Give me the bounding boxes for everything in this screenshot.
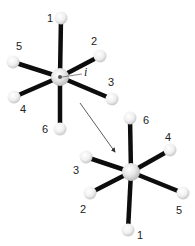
ligand-label-3: 3	[73, 164, 79, 176]
inversion-arrow	[80, 103, 115, 152]
ligand-atom-1	[55, 12, 68, 25]
inversion-center-dot	[58, 75, 62, 79]
ligand-label-2: 2	[91, 35, 97, 47]
central-atom	[122, 163, 140, 181]
ligand-atom-6	[54, 123, 67, 136]
ligand-atom-6	[124, 112, 137, 125]
ligand-label-6: 6	[143, 114, 149, 126]
ligand-label-1: 1	[137, 229, 143, 241]
top-molecule: i123456	[7, 12, 119, 136]
ligand-atom-1	[122, 224, 135, 237]
arrow-line	[80, 103, 115, 152]
ligand-label-3: 3	[108, 76, 114, 88]
ligand-atom-4	[8, 91, 21, 104]
ligand-label-4: 4	[20, 103, 26, 115]
bottom-molecule: 123456	[73, 112, 190, 242]
ligand-label-6: 6	[42, 123, 48, 135]
ligand-label-4: 4	[165, 131, 171, 143]
ligand-label-2: 2	[80, 203, 86, 215]
ligand-atom-2	[84, 187, 97, 200]
ligand-atom-3	[80, 151, 93, 164]
ligand-atom-5	[177, 187, 190, 200]
inversion-center-label: i	[84, 65, 87, 79]
ligand-atom-5	[7, 56, 20, 69]
ligand-atom-4	[164, 144, 177, 157]
octahedral-inversion-diagram: i123456 123456	[0, 0, 195, 246]
ligand-atom-2	[94, 50, 107, 63]
ligand-atom-3	[106, 93, 119, 106]
ligand-label-5: 5	[16, 40, 22, 52]
ligand-label-5: 5	[176, 204, 182, 216]
ligand-label-1: 1	[47, 12, 53, 24]
